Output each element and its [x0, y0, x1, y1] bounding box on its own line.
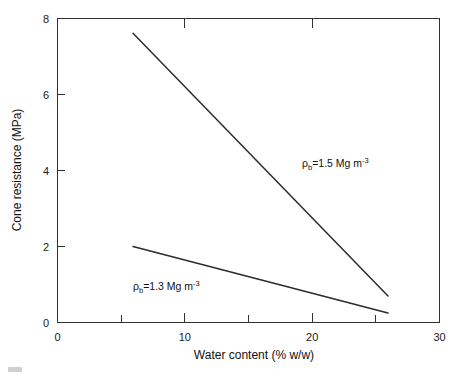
y-tick-label-2: 2 — [43, 241, 49, 253]
y-tick-label-8: 8 — [43, 13, 49, 25]
rho-rest-lower: =1.3 Mg m — [143, 280, 193, 292]
y-axis-ticks — [58, 19, 65, 323]
y-tick-labels: 8 6 4 2 0 — [43, 13, 49, 329]
x-tick-label-0: 0 — [54, 331, 60, 343]
x-tick-labels: 0 10 20 30 — [54, 331, 445, 343]
x-tick-label-30: 30 — [433, 331, 445, 343]
x-axis-title: Water content (% w/w) — [194, 348, 314, 362]
rho-rest-upper: =1.5 Mg m — [312, 157, 362, 169]
x-tick-label-20: 20 — [306, 331, 318, 343]
y-tick-label-6: 6 — [43, 89, 49, 101]
figure-container: 8 6 4 2 0 0 10 20 30 Water content (% w/… — [0, 0, 471, 380]
y-axis-title: Cone resistance (MPa) — [10, 109, 24, 232]
y-tick-label-4: 4 — [43, 165, 49, 177]
series-annotation-rho-1-3: ρb=1.3 Mg m-3 — [133, 279, 200, 295]
rho-superscript-upper: -3 — [362, 156, 369, 165]
rho-superscript-lower: -3 — [193, 279, 200, 288]
x-axis-ticks-bottom — [121, 313, 376, 323]
x-axis-ticks-top — [185, 19, 312, 28]
scan-artifact — [8, 367, 22, 372]
x-tick-label-10: 10 — [179, 331, 191, 343]
series-annotation-rho-1-5: ρb=1.5 Mg m-3 — [302, 156, 369, 172]
y-tick-label-0: 0 — [43, 317, 49, 329]
cone-resistance-chart: 8 6 4 2 0 0 10 20 30 Water content (% w/… — [0, 0, 471, 380]
